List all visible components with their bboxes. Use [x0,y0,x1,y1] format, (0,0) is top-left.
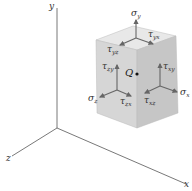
y-axis-label: y [49,2,54,11]
x-axis-label: x [184,180,189,189]
sigma-z-label: σz [88,94,97,104]
stress-cube [96,26,178,128]
x-axis [57,128,186,184]
point-q-label: Q [125,68,133,78]
tau-xy-label: τxy [163,62,175,72]
tau-xz-label: τxz [144,96,156,106]
tau-zx-label: τzx [120,97,132,107]
sigma-x-label: σx [180,88,190,98]
tau-yx-label: τyx [148,30,160,40]
tau-zy-label: τzy [102,62,114,72]
cube-right-face [137,36,178,128]
point-q-marker [135,72,138,75]
tau-yz-label: τyz [107,45,119,55]
sigma-y-label: σy [131,9,141,19]
z-axis [12,128,57,156]
z-axis-label: z [6,154,11,163]
stress-element-diagram: y x z Q σy τyx τyz τzy σz τzx τxy τxz σx [0,0,192,191]
